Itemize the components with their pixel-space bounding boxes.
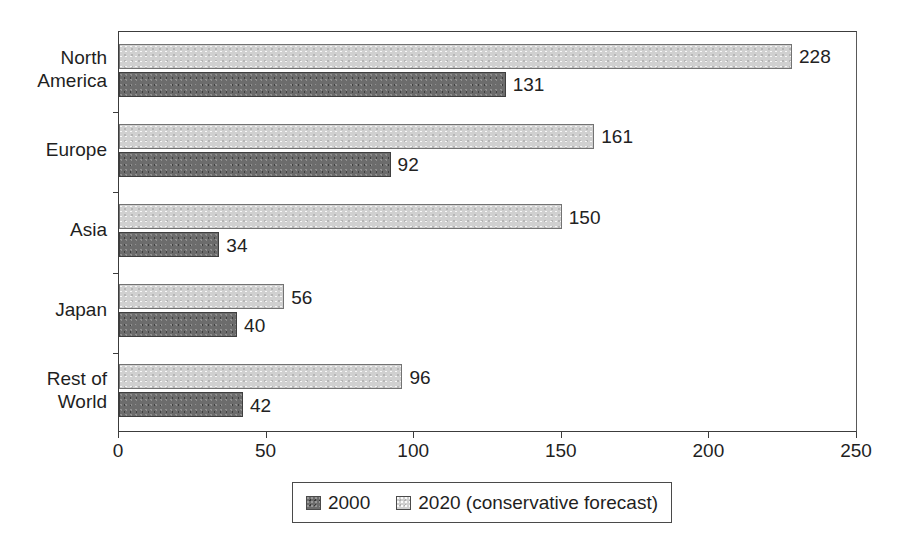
x-axis-tick-label: 150 [545,441,577,460]
y-axis-tick [113,353,119,354]
x-axis-tick-label: 50 [255,441,276,460]
bar-dark-series [119,152,391,177]
x-axis-tick [413,432,414,438]
bar-dark-series [119,312,237,337]
category-label: Japan [0,298,113,321]
x-axis-tick [266,432,267,438]
bar-row: 34 [119,232,856,257]
bar-value-label: 96 [402,367,430,386]
bar-row: 131 [119,72,856,97]
bar-value-label: 56 [284,287,312,306]
y-axis-tick [113,273,119,274]
bar-value-label: 150 [562,207,601,226]
bar-row: 161 [119,124,856,149]
x-axis-tick [561,432,562,438]
bar-chart: North AmericaEuropeAsiaJapanRest of Worl… [0,0,911,552]
category-axis-labels: North AmericaEuropeAsiaJapanRest of Worl… [0,31,113,432]
bar-row: 40 [119,312,856,337]
bar-light-series [119,44,792,69]
bar-value-label: 34 [219,235,247,254]
category-label: Europe [0,138,113,161]
x-axis-tick [708,432,709,438]
plot-area: 228131161921503456409642 [118,31,857,432]
bar-value-label: 40 [237,315,265,334]
x-axis-tick-label: 200 [693,441,725,460]
bar-value-label: 228 [792,47,831,66]
light-swatch-icon [396,496,411,510]
bar-light-series [119,364,402,389]
bar-value-label: 42 [243,395,271,414]
y-axis-tick [113,192,119,193]
bar-light-series [119,124,594,149]
category-label: Asia [0,218,113,241]
dark-swatch-icon [306,496,321,510]
bar-row: 56 [119,284,856,309]
x-axis-tick-label: 250 [840,441,872,460]
y-axis-tick [113,112,119,113]
x-axis: 050100150200250 [118,432,857,472]
bar-light-series [119,204,562,229]
bar-row: 96 [119,364,856,389]
bar-light-series [119,284,284,309]
bar-row: 228 [119,44,856,69]
bar-row: 150 [119,204,856,229]
x-axis-tick [118,432,119,438]
x-axis-tick [856,432,857,438]
bar-row: 92 [119,152,856,177]
chart-legend: 20002020 (conservative forecast) [292,482,672,523]
legend-label: 2020 (conservative forecast) [418,493,658,512]
bar-dark-series [119,392,243,417]
category-label: North America [0,46,113,92]
bar-value-label: 92 [391,155,419,174]
legend-item: 2020 (conservative forecast) [396,493,658,512]
legend-item: 2000 [306,493,370,512]
bar-dark-series [119,232,219,257]
category-label: Rest of World [0,367,113,413]
bar-row: 42 [119,392,856,417]
legend-label: 2000 [328,493,370,512]
x-axis-tick-label: 0 [113,441,124,460]
bar-dark-series [119,72,506,97]
bar-value-label: 161 [594,127,633,146]
x-axis-tick-label: 100 [397,441,429,460]
bar-value-label: 131 [506,75,545,94]
